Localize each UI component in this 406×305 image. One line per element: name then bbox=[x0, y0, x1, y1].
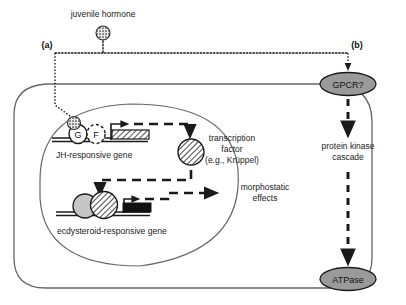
branch-a-dotted-arrow bbox=[55, 53, 78, 122]
juvenile-hormone-molecule-icon bbox=[96, 26, 110, 40]
ecdysteroid-to-morphostatic-dashed-arrow bbox=[145, 193, 212, 199]
jh-responsive-gene-label: JH-responsive gene bbox=[56, 150, 133, 160]
atpase-node-label: ATPase bbox=[332, 275, 363, 285]
juvenile-hormone-label: juvenile hormone bbox=[70, 9, 136, 19]
ecdysteroid-receptor-icon bbox=[91, 192, 118, 219]
morphostatic-effects-label-line1: morphostatic bbox=[241, 182, 290, 192]
cell-membrane bbox=[14, 84, 372, 288]
jh-gene-box-icon bbox=[112, 130, 149, 139]
transcription-factor-icon bbox=[178, 139, 204, 165]
protein-kinase-cascade-label-line1: protein kinase bbox=[322, 141, 375, 151]
protein-kinase-cascade-label-line2: cascade bbox=[332, 152, 364, 162]
transcription-factor-label-line1: transcription bbox=[209, 133, 256, 143]
ecdysteroid-gene-box-icon bbox=[123, 203, 151, 212]
jh-receptor-molecule-icon bbox=[68, 117, 81, 130]
transcription-factor-label-line3: (e.g., Krüppel) bbox=[205, 155, 259, 165]
ecdysteroid-responsive-gene-label: ecdysteroid-responsive gene bbox=[57, 226, 167, 236]
promoter-element-g-label: G bbox=[74, 130, 81, 140]
branch-a-label: (a) bbox=[42, 40, 53, 50]
branch-b-label: (b) bbox=[351, 40, 363, 50]
transcription-factor-label-line2: factor bbox=[221, 144, 242, 154]
promoter-element-f-label: F bbox=[93, 130, 99, 140]
morphostatic-effects-label-line2: effects bbox=[253, 193, 278, 203]
tf-to-ecdysteroid-gene-dashed-arrow bbox=[100, 170, 191, 190]
pathway-diagram: juvenile hormone (a) (b) G F JH-responsi… bbox=[0, 0, 406, 305]
gpcr-node-label: GPCR? bbox=[332, 80, 363, 90]
figure-canvas: juvenile hormone (a) (b) G F JH-responsi… bbox=[0, 0, 406, 305]
